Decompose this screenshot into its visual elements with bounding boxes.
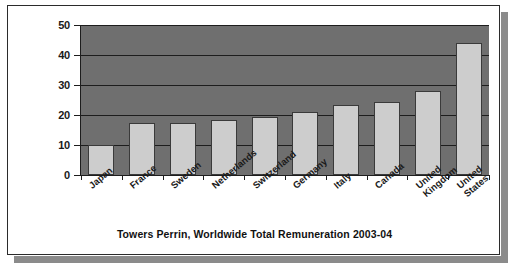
y-tick-mark-0 — [74, 175, 80, 176]
y-tick-label-50: 50 — [48, 19, 70, 31]
y-tick-mark-50 — [74, 25, 80, 26]
y-tick-mark-30 — [74, 85, 80, 86]
y-tick-mark-40 — [74, 55, 80, 56]
x-tick-mark-6 — [326, 175, 327, 180]
y-tick-label-0: 0 — [48, 169, 70, 181]
figure-shadow-bottom-edge — [14, 256, 508, 263]
x-tick-mark-8 — [407, 175, 408, 180]
x-tick-mark-5 — [285, 175, 286, 180]
x-tick-mark-2 — [163, 175, 164, 180]
x-tick-mark-0 — [81, 175, 82, 180]
figure-shadow-right-edge — [501, 12, 508, 263]
y-tick-label-30: 30 — [48, 79, 70, 91]
x-tick-mark-7 — [367, 175, 368, 180]
y-tick-mark-20 — [74, 115, 80, 116]
bar-italy — [333, 105, 359, 176]
y-tick-label-20: 20 — [48, 109, 70, 121]
bar-united-states — [456, 43, 482, 175]
chart-figure-frame: 01020304050 JapanFranceSwedenNetherlands… — [7, 5, 500, 255]
y-tick-mark-10 — [74, 145, 80, 146]
y-tick-label-40: 40 — [48, 49, 70, 61]
x-tick-mark-1 — [122, 175, 123, 180]
y-tick-label-10: 10 — [48, 139, 70, 151]
chart-caption: Towers Perrin, Worldwide Total Remunerat… — [8, 228, 501, 240]
x-tick-mark-3 — [203, 175, 204, 180]
x-tick-mark-4 — [244, 175, 245, 180]
